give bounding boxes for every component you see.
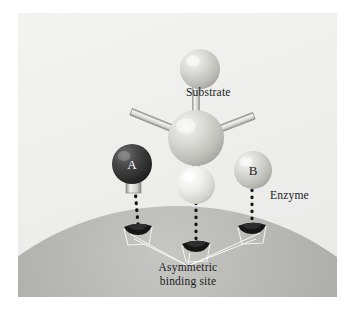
atom-group-a: A [112, 144, 152, 184]
binding-site-label-line2: binding site [128, 275, 248, 289]
diagram-canvas: A B [18, 13, 337, 297]
atom-center-carbon [168, 110, 224, 166]
binding-site-label-line1: Asymmetric [128, 261, 248, 275]
enzyme-label: Enzyme [270, 189, 309, 201]
diagram-figure: A B Substrate Enzyme Asymmetric binding … [0, 0, 356, 317]
illustration-panel: A B Substrate Enzyme Asymmetric binding … [18, 13, 337, 297]
atom-group-b: B [234, 151, 272, 189]
binding-site-label: Asymmetric binding site [128, 261, 248, 288]
substrate-label: Substrate [186, 86, 231, 98]
atom-label-b: B [249, 163, 258, 178]
atom-top [180, 49, 220, 89]
atom-label-a: A [127, 157, 137, 172]
atom-bottom [177, 166, 215, 204]
